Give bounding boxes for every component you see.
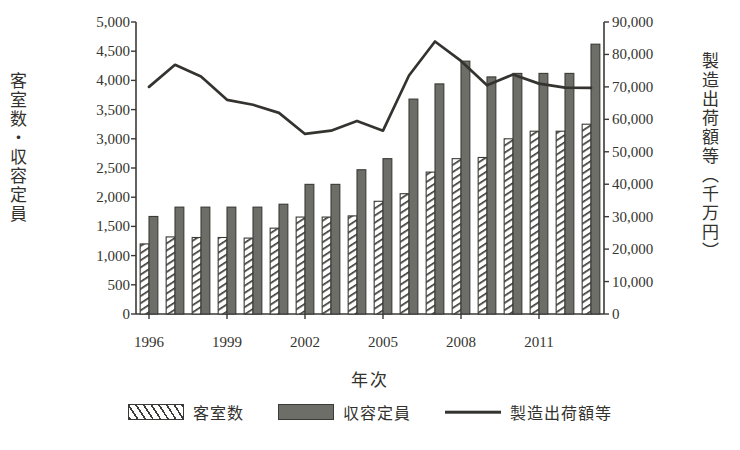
bar-capacity	[253, 207, 262, 314]
bar-rooms	[374, 201, 383, 314]
bar-rooms	[582, 124, 591, 314]
bar-rooms	[218, 238, 227, 315]
bar-rooms	[478, 157, 487, 314]
bar-rooms	[166, 237, 175, 314]
bar-capacity	[201, 207, 210, 314]
plot-area	[0, 0, 740, 450]
bar-rooms	[530, 131, 539, 314]
bar-rooms	[400, 194, 409, 314]
bar-rooms	[348, 216, 357, 314]
bar-capacity	[149, 216, 158, 314]
bar-rooms	[556, 131, 565, 314]
bar-capacity	[539, 73, 548, 314]
bar-capacity	[305, 184, 314, 314]
bar-rooms	[192, 238, 201, 315]
legend-item: 客室数	[128, 400, 244, 424]
bar-capacity	[409, 99, 418, 314]
bar-capacity	[227, 207, 236, 314]
bar-capacity	[513, 73, 522, 314]
legend-swatch-hatch	[128, 404, 184, 420]
bar-capacity	[591, 44, 600, 314]
chart-legend: 客室数収容定員製造出荷額等	[0, 400, 740, 424]
bar-capacity	[435, 84, 444, 314]
chart-figure: 客室数・収容定員 製造出荷額等（千万円） 年次 05001,0001,5002,…	[0, 0, 740, 450]
bar-rooms	[270, 228, 279, 314]
bar-rooms	[452, 159, 461, 314]
legend-swatch-solid	[278, 404, 334, 420]
legend-item: 収容定員	[278, 400, 411, 424]
bar-capacity	[487, 77, 496, 314]
bar-capacity	[565, 73, 574, 314]
bar-capacity	[461, 61, 470, 314]
bar-capacity	[357, 170, 366, 314]
bar-capacity	[175, 207, 184, 314]
bar-rooms	[140, 244, 149, 314]
bar-rooms	[296, 217, 305, 314]
bar-capacity	[383, 159, 392, 314]
legend-label: 製造出荷額等	[510, 400, 612, 424]
bar-capacity	[279, 204, 288, 314]
legend-label: 客室数	[193, 400, 244, 424]
line-shipment-value	[149, 41, 591, 133]
legend-label: 収容定員	[343, 400, 411, 424]
bar-rooms	[426, 172, 435, 314]
legend-item: 製造出荷額等	[445, 400, 612, 424]
legend-swatch-line	[445, 404, 501, 420]
bar-capacity	[331, 184, 340, 314]
bar-rooms	[504, 139, 513, 314]
bar-rooms	[244, 238, 253, 314]
bar-rooms	[322, 217, 331, 314]
